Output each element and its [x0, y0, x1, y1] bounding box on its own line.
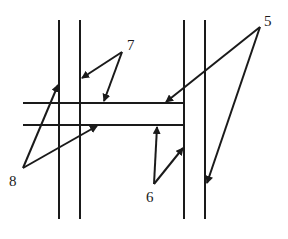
diagram-canvas: 5786	[0, 0, 288, 239]
leader-arrow-6	[154, 148, 183, 184]
leader-arrow-6	[154, 127, 157, 184]
leader-arrow-5	[207, 27, 260, 183]
leader-arrow-7	[82, 52, 122, 78]
leader-arrow-7	[104, 52, 122, 101]
callout-label-6: 6	[146, 190, 154, 205]
leader-arrow-5	[166, 27, 260, 102]
callout-label-5: 5	[264, 14, 272, 29]
line-drawing	[0, 0, 288, 239]
leader-arrow-8	[23, 85, 58, 168]
horizontal-lines	[23, 103, 184, 125]
callout-label-8: 8	[9, 174, 17, 189]
callout-label-7: 7	[127, 38, 135, 53]
